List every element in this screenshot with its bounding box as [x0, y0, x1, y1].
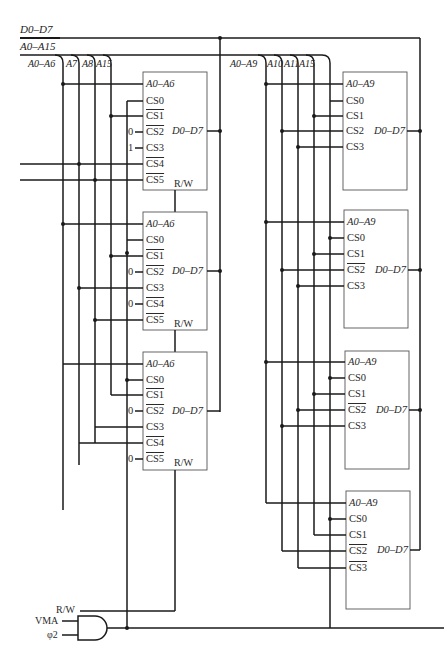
data-bus-label: D0–D7: [20, 24, 52, 35]
cs-pin-label: CS3: [349, 563, 367, 574]
cs-pin-label: CS1: [346, 111, 364, 122]
chip-addr-label: A0–A6: [146, 79, 175, 90]
tie-value: 0: [128, 127, 133, 138]
tap-label: A15: [96, 59, 112, 69]
cs-pin-label: CS2: [146, 406, 164, 417]
cs-pin-label: CS1: [146, 251, 164, 262]
cs-pin-label: CS2: [146, 267, 164, 278]
circuit-wiring: [0, 0, 444, 660]
cs-pin-label: CS3: [346, 142, 364, 153]
tap-label: A7: [66, 59, 77, 69]
tap-label: A10: [267, 59, 283, 69]
cs-pin-label: CS4: [146, 299, 164, 310]
cs-pin-label: CS4: [146, 438, 164, 449]
cs-pin-label: CS3: [146, 422, 164, 433]
chip-addr-label: A0–A9: [349, 498, 378, 509]
cs-pin-label: CS2: [348, 405, 366, 416]
phi2-input-label: φ2: [47, 630, 58, 640]
cs-pin-label: CS0: [146, 235, 164, 246]
chip-addr-label: A0–A6: [146, 219, 175, 230]
chip-data-label: D0–D7: [377, 545, 408, 556]
tap-label: A15: [299, 59, 315, 69]
cs-pin-label: CS3: [146, 143, 164, 154]
cs-pin-label: CS3: [347, 281, 365, 292]
cs-pin-label: CS1: [146, 111, 164, 122]
cs-pin-label: CS5: [146, 315, 164, 326]
cs-pin-label: CS1: [146, 390, 164, 401]
cs-pin-label: CS2: [146, 127, 164, 138]
cs-pin-label: CS0: [348, 373, 366, 384]
cs-pin-label: CS1: [347, 249, 365, 260]
chip-data-label: D0–D7: [376, 405, 407, 416]
chip-data-label: D0–D7: [172, 126, 203, 137]
rw-label: R/W: [174, 179, 193, 189]
chip-addr-label: A0–A6: [146, 359, 175, 370]
cs-pin-label: CS0: [346, 96, 364, 107]
chip-addr-label: A0–A9: [346, 79, 375, 90]
rw-input-label: R/W: [56, 605, 75, 615]
cs-pin-label: CS1: [349, 530, 367, 541]
cs-pin-label: CS3: [146, 283, 164, 294]
chip-addr-label: A0–A9: [347, 217, 376, 228]
cs-pin-label: CS0: [146, 96, 164, 107]
cs-pin-label: CS0: [347, 233, 365, 244]
cs-pin-label: CS5: [146, 454, 164, 465]
tap-label: A0–A9: [230, 59, 257, 69]
rw-label: R/W: [174, 319, 193, 329]
tie-value: 0: [128, 454, 133, 465]
tap-label: A11: [284, 59, 299, 69]
chip-data-label: D0–D7: [172, 406, 203, 417]
tie-value: 1: [128, 143, 133, 154]
cs-pin-label: CS2: [347, 265, 365, 276]
tap-label: A0–A6: [28, 59, 55, 69]
rw-label: R/W: [174, 458, 193, 468]
chip-addr-label: A0–A9: [348, 357, 377, 368]
tie-value: 0: [128, 299, 133, 310]
cs-pin-label: CS0: [349, 514, 367, 525]
vma-input-label: VMA: [35, 616, 58, 626]
chip-data-label: D0–D7: [375, 265, 406, 276]
tie-value: 0: [128, 267, 133, 278]
cs-pin-label: CS1: [348, 389, 366, 400]
tap-label: A8: [82, 59, 93, 69]
chip-data-label: D0–D7: [374, 126, 405, 137]
chip-data-label: D0–D7: [172, 266, 203, 277]
cs-pin-label: CS4: [146, 159, 164, 170]
and-gate: [78, 616, 107, 640]
cs-pin-label: CS2: [346, 126, 364, 137]
cs-pin-label: CS5: [146, 175, 164, 186]
cs-pin-label: CS2: [349, 546, 367, 557]
address-bus-label: A0–A15: [20, 41, 55, 52]
tie-value: 0: [128, 406, 133, 417]
cs-pin-label: CS3: [348, 421, 366, 432]
cs-pin-label: CS0: [146, 375, 164, 386]
